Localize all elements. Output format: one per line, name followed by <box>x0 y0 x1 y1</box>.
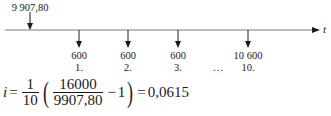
present-value-arrow-icon <box>27 12 33 30</box>
period-label: 3. <box>174 62 182 73</box>
payment-arrow-icon <box>245 30 251 48</box>
axis-label-t: t <box>323 24 326 35</box>
formula-result: 0,0615 <box>148 84 189 101</box>
payment-arrow-icon <box>76 30 82 48</box>
payment-amount: 600 <box>71 50 87 61</box>
period-label: 1. <box>75 62 83 73</box>
inner-denominator: 9907,80 <box>53 92 104 108</box>
outer-denominator: 10 <box>22 92 39 108</box>
present-value-label: 9 907,80 <box>12 2 49 13</box>
axis-arrowhead-icon <box>312 27 320 33</box>
outer-numerator: 1 <box>25 77 35 92</box>
interest-rate-formula: i = 1 10 ( 16000 9907,80 − 1 ) = 0,0615 <box>3 74 189 110</box>
payment-arrow-icon <box>175 30 181 48</box>
formula-variable: i <box>3 84 7 101</box>
period-label: 10. <box>241 62 254 73</box>
ellipsis-label: … <box>213 62 224 73</box>
inner-numerator: 16000 <box>58 77 98 92</box>
cash-flow-timeline: 9 907,80 t 600 1. 600 2. 600 3. … 10 600… <box>0 0 331 72</box>
open-paren: ( <box>43 77 49 107</box>
outer-fraction: 1 10 <box>22 77 39 108</box>
payment-arrow-icon <box>125 30 131 48</box>
close-paren: ) <box>127 77 133 107</box>
equals-sign: = <box>137 84 145 101</box>
one-term: 1 <box>118 84 126 101</box>
timeline-graphic <box>0 0 331 72</box>
period-label: 2. <box>124 62 132 73</box>
minus-sign: − <box>107 84 115 101</box>
payment-amount: 600 <box>120 50 136 61</box>
inner-fraction: 16000 9907,80 <box>53 77 104 108</box>
payment-amount: 10 600 <box>234 50 263 61</box>
equals-sign: = <box>9 84 17 101</box>
payment-amount: 600 <box>170 50 186 61</box>
